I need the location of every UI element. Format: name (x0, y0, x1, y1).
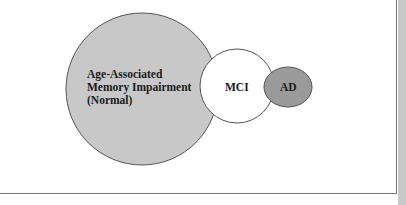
venn-diagram (0, 0, 406, 205)
aami-label-line-2: Memory Impairment (87, 81, 191, 94)
ad-label: AD (280, 81, 297, 94)
aami-label: Age-Associated Memory Impairment (Normal… (87, 68, 191, 107)
aami-label-line-3: (Normal) (87, 94, 191, 107)
mci-label: MCI (225, 81, 249, 94)
aami-label-line-1: Age-Associated (87, 68, 191, 81)
